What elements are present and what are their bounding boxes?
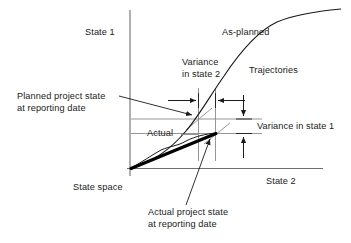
x-axis-label: State 2 xyxy=(266,176,296,187)
trajectories-label: Trajectories xyxy=(249,65,298,76)
as-planned-label: As-planned xyxy=(222,27,269,38)
state-space-label: State space xyxy=(73,182,123,193)
variance-state1-label: Variance in state 1 xyxy=(257,121,334,132)
planned-point-label-line2: at reporting date xyxy=(17,103,86,114)
leader-actual-point xyxy=(186,139,210,205)
variance-state2-label-line1: Variance xyxy=(182,57,218,68)
variance-state2-label-line2: in state 2 xyxy=(182,69,220,80)
actual-heavy-line xyxy=(131,134,216,169)
y-axis-label: State 1 xyxy=(85,27,115,38)
diagram-canvas: State 1 State 2 State space As-planned T… xyxy=(0,0,351,243)
actual-curve-label: Actual xyxy=(147,128,173,139)
planned-point-label-line1: Planned project state xyxy=(17,91,105,102)
actual-point-label-line2: at reporting date xyxy=(148,219,217,230)
actual-point-label-line1: Actual project state xyxy=(148,207,228,218)
